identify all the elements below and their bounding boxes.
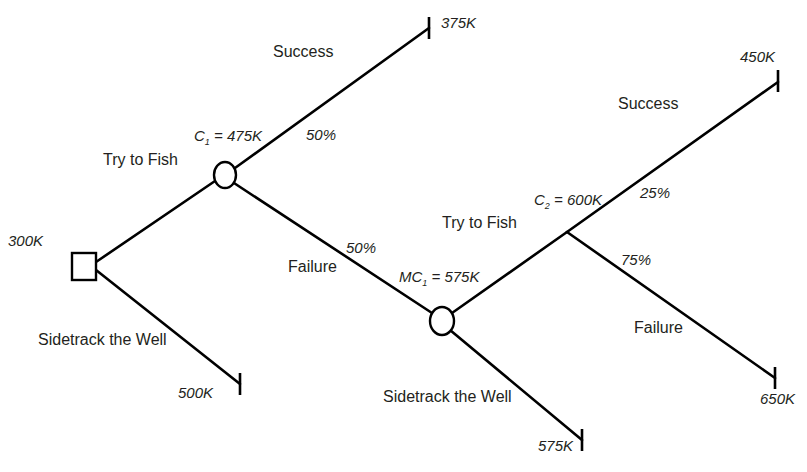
edge-mc1-sidetrack (450, 330, 582, 440)
chance-node-c2-label: C2 = 600K (534, 191, 603, 211)
chance-node-mc1 (430, 307, 454, 335)
branch-label-try-to-fish-2: Try to Fish (442, 214, 517, 231)
edge-root-to-sidetrack (96, 270, 240, 384)
branch-label-sidetrack-2: Sidetrack the Well (383, 388, 512, 405)
outcome-375k: 375K (441, 14, 477, 31)
edge-c2-failure (567, 232, 775, 378)
outcome-500k: 500K (178, 384, 214, 401)
prob-success-1: 50% (306, 126, 336, 143)
chance-node-c1-label: C1 = 475K (194, 127, 263, 147)
tree-edges (96, 28, 778, 440)
branch-label-sidetrack-1: Sidetrack the Well (38, 331, 167, 348)
decision-node-mc1-label: MC1 = 575K (399, 268, 480, 288)
chance-node-c1 (214, 162, 236, 188)
decision-tree-diagram: 300K Try to Fish Sidetrack the Well 500K… (0, 0, 807, 472)
branch-label-success-2: Success (618, 95, 678, 112)
outcome-650k: 650K (760, 390, 796, 407)
branch-label-failure-1: Failure (288, 258, 337, 275)
outcome-450k: 450K (740, 48, 776, 65)
outcome-575k: 575K (538, 437, 574, 454)
prob-failure-2: 75% (621, 251, 651, 268)
prob-failure-1: 50% (346, 239, 376, 256)
terminal-ticks (240, 17, 778, 451)
branch-label-try-to-fish-1: Try to Fish (103, 151, 178, 168)
decision-node-root (72, 253, 96, 280)
prob-success-2: 25% (639, 184, 670, 201)
edge-root-to-c1 (96, 181, 215, 262)
branch-label-success-1: Success (273, 43, 333, 60)
edge-c1-failure (234, 183, 432, 313)
branch-label-failure-2: Failure (634, 319, 683, 336)
root-value: 300K (8, 232, 44, 249)
